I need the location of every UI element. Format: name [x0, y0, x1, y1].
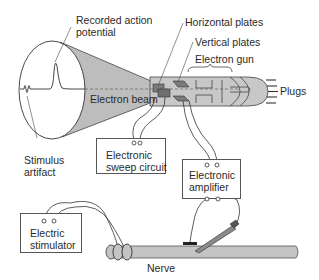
amplifier-label: Electronic amplifier [189, 169, 235, 193]
amplifier-box: Electronic amplifier [182, 159, 241, 199]
label-plugs: Plugs [280, 85, 306, 97]
label-line: sweep circuit [106, 161, 167, 173]
stimulator-box: Electric stimulator [20, 213, 82, 253]
sweep-circuit-box: Electronic sweep circuit [96, 138, 166, 174]
label-recorded-action-potential: Recorded action potential [76, 14, 152, 38]
label-electron-beam: Electron beam [90, 93, 158, 105]
label-stimulus-artifact: Stimulus artifact [24, 154, 64, 178]
sweep-circuit-label: Electronic sweep circuit [106, 149, 167, 173]
crt-screen [19, 41, 85, 139]
label-horizontal-plates: Horizontal plates [185, 16, 263, 28]
label-line: stimulator [30, 239, 76, 251]
label-vertical-plates: Vertical plates [195, 36, 260, 48]
label-line: amplifier [189, 181, 235, 193]
label-line: Electric [30, 227, 76, 239]
label-line: artifact [24, 166, 64, 178]
stimulator-label: Electric stimulator [30, 227, 76, 251]
horizontal-plate-2 [158, 89, 170, 97]
label-line: Stimulus [24, 154, 64, 166]
label-line: Recorded action [76, 14, 152, 26]
label-line: Electronic [106, 149, 167, 161]
label-line: potential [76, 26, 152, 38]
label-nerve: Nerve [147, 262, 175, 274]
electron-gun-bracket [188, 64, 232, 72]
label-electron-gun: Electron gun [195, 53, 254, 65]
ground-electrode [183, 242, 197, 245]
label-line: Electronic [189, 169, 235, 181]
